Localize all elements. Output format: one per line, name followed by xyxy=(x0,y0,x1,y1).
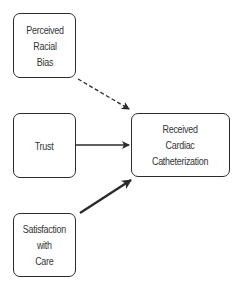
node-label: Perceived Racial Bias xyxy=(26,22,63,70)
node-trust: Trust xyxy=(13,113,76,178)
node-label: Trust xyxy=(35,138,54,154)
node-perceived-racial-bias: Perceived Racial Bias xyxy=(13,13,76,78)
node-satisfaction-with-care: Satisfaction with Care xyxy=(13,213,76,277)
node-label: Satisfaction with Care xyxy=(23,221,66,269)
node-label: Received Cardiac Catheterization xyxy=(152,121,208,169)
node-received-cardiac-catheterization: Received Cardiac Catheterization xyxy=(131,113,230,177)
edge-bias-to-catheterization xyxy=(78,79,129,109)
edge-satisfaction-to-catheterization xyxy=(80,180,131,213)
